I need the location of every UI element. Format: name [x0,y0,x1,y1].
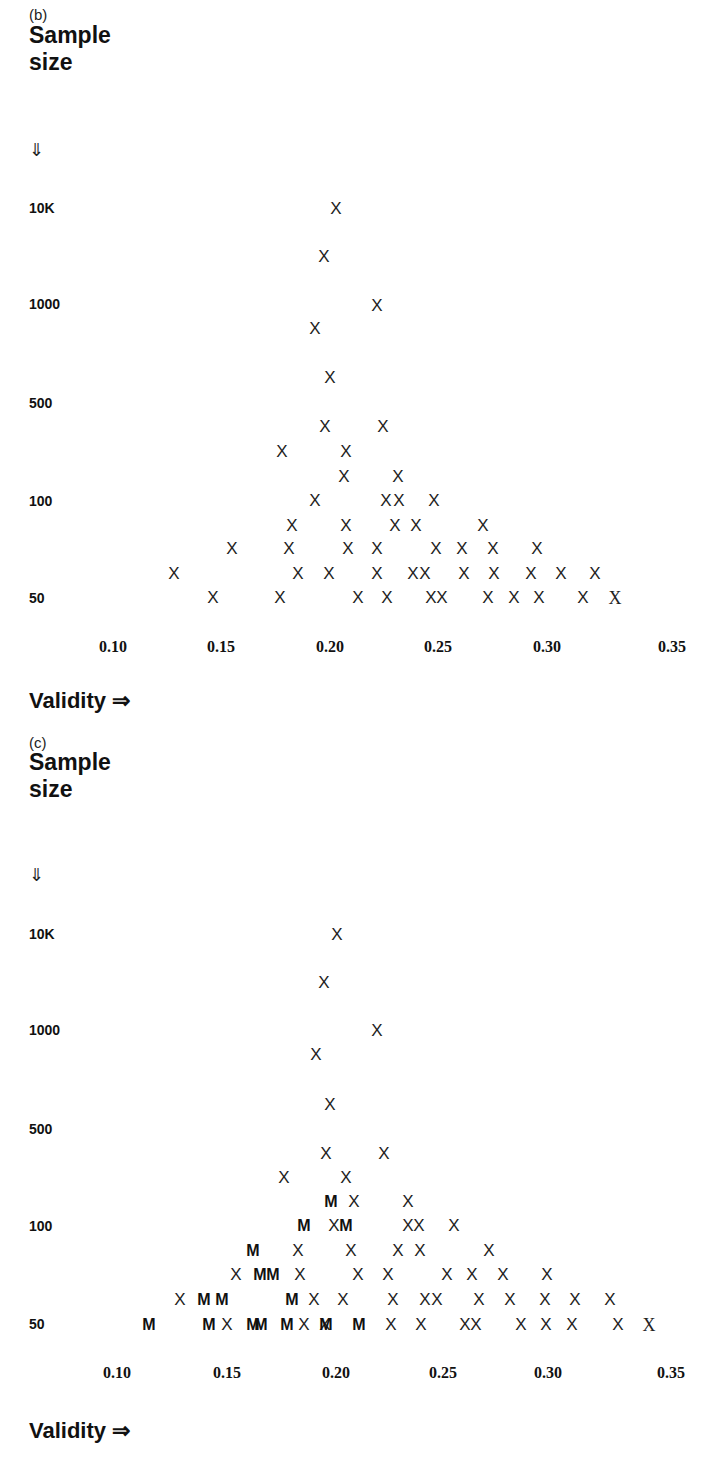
study-marker: X [278,1169,289,1186]
study-marker: X [352,1266,363,1283]
ytick-10k: 10K [29,926,55,942]
xtick-0.35: 0.35 [657,1364,685,1382]
study-marker: X [382,1266,393,1283]
xtick-0.10: 0.10 [103,1364,131,1382]
study-marker: X [414,1242,425,1259]
xtick-0.25: 0.25 [429,1364,457,1382]
panel-c-ylabel-line2: size [29,776,111,803]
study-marker: X [470,1316,481,1333]
panel-c-chart: (c) Sample size ⇓ 10K 1000 500 100 50 XX… [0,0,709,1473]
study-marker: X [298,1316,309,1333]
study-marker: X [473,1291,484,1308]
study-marker: X [504,1291,515,1308]
xtick-0.20: 0.20 [322,1364,350,1382]
study-marker: X [320,1145,331,1162]
study-marker: X [340,1169,351,1186]
panel-c-ylabel-line1: Sample [29,749,111,776]
missing-study-marker: M [246,1242,259,1259]
study-marker: X [459,1316,470,1333]
study-marker: X [328,1217,339,1234]
xtick-0.30: 0.30 [534,1364,562,1382]
study-marker: X [413,1217,424,1234]
ytick-1000: 1000 [29,1022,60,1038]
missing-study-marker: M [319,1316,332,1333]
study-marker: X [497,1266,508,1283]
study-marker: X [371,1022,382,1039]
missing-study-marker: M [339,1217,352,1234]
missing-study-marker: M [352,1316,365,1333]
study-marker: X [392,1242,403,1259]
study-marker: X [385,1316,396,1333]
xtick-0.15: 0.15 [213,1364,241,1382]
panel-c-ylabel: Sample size [29,749,111,803]
study-marker: X [415,1316,426,1333]
ytick-500: 500 [29,1121,52,1137]
down-arrow-icon: ⇓ [29,864,44,886]
missing-study-marker: M [285,1291,298,1308]
study-marker: X [541,1266,552,1283]
study-marker: X [419,1291,430,1308]
missing-study-marker: M [197,1291,210,1308]
study-marker: X [402,1193,413,1210]
panel-c-xlabel: Validity ⇒ [29,1418,130,1444]
study-marker: X [448,1217,459,1234]
missing-study-marker: M [324,1193,337,1210]
study-marker: X [643,1317,656,1334]
missing-study-marker: M [253,1266,266,1283]
study-marker: X [604,1291,615,1308]
study-marker: X [466,1266,477,1283]
study-marker: X [387,1291,398,1308]
missing-study-marker: M [280,1316,293,1333]
study-marker: X [230,1266,241,1283]
study-marker: X [378,1145,389,1162]
study-marker: X [569,1291,580,1308]
study-marker: X [539,1291,550,1308]
study-marker: X [612,1316,623,1333]
study-marker: X [308,1291,319,1308]
missing-study-marker: M [254,1316,267,1333]
study-marker: X [337,1291,348,1308]
study-marker: X [310,1046,321,1063]
study-marker: X [331,926,342,943]
study-marker: X [515,1316,526,1333]
missing-study-marker: M [266,1266,279,1283]
study-marker: X [292,1242,303,1259]
ytick-100: 100 [29,1218,52,1234]
ytick-50: 50 [29,1316,45,1332]
study-marker: X [345,1242,356,1259]
missing-study-marker: M [202,1316,215,1333]
study-marker: X [431,1291,442,1308]
missing-study-marker: M [215,1291,228,1308]
study-marker: X [566,1316,577,1333]
study-marker: X [402,1217,413,1234]
missing-study-marker: M [142,1316,155,1333]
study-marker: X [324,1096,335,1113]
study-marker: X [540,1316,551,1333]
study-marker: X [221,1316,232,1333]
study-marker: X [174,1291,185,1308]
study-marker: X [318,974,329,991]
missing-study-marker: M [297,1217,310,1234]
study-marker: X [348,1193,359,1210]
study-marker: X [441,1266,452,1283]
study-marker: X [483,1242,494,1259]
study-marker: X [294,1266,305,1283]
